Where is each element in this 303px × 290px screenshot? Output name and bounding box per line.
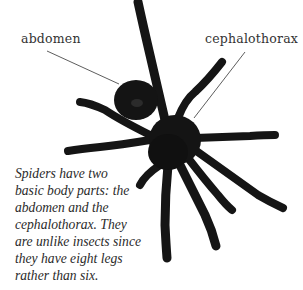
caption-line: rather than six. [15, 267, 165, 284]
caption-line: Spiders have two [15, 165, 165, 182]
spider-leg [68, 140, 150, 151]
caption-text: Spiders have two basic body parts: the a… [15, 165, 165, 284]
abdomen-label: abdomen [21, 31, 81, 46]
cephalothorax-label: cephalothorax [205, 31, 298, 46]
caption-line: abdomen and the [15, 199, 165, 216]
abdomen-leader-line [47, 51, 119, 84]
caption-line: basic body parts: the [15, 182, 165, 199]
spider-leg [195, 135, 275, 138]
spider-leg [165, 165, 168, 258]
caption-line: they have eight legs [15, 250, 165, 267]
caption-line: cephalothorax. They [15, 216, 165, 233]
caption-line: are unlike insects since [15, 233, 165, 250]
